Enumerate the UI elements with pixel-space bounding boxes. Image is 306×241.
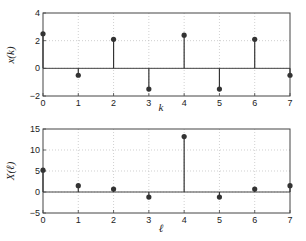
x-tick-label: 0 <box>40 98 45 108</box>
y-axis-label: X(ℓ) <box>4 161 17 181</box>
x-tick-label: 7 <box>287 215 292 225</box>
stem-marker <box>111 186 116 191</box>
stem-marker <box>182 33 187 38</box>
stem-marker <box>252 186 257 191</box>
x-tick-label: 5 <box>217 215 222 225</box>
stem-marker <box>146 86 151 91</box>
y-tick-label: −2 <box>30 91 40 101</box>
x-tick-label: 4 <box>182 98 187 108</box>
axes-frame <box>43 13 290 96</box>
stem-marker <box>217 194 222 199</box>
stem-marker <box>76 73 81 78</box>
stem-marker <box>287 183 292 188</box>
y-tick-label: 0 <box>35 63 40 73</box>
subplot-1: 01234567−2024kx(k) <box>4 8 293 113</box>
x-tick-label: 0 <box>40 215 45 225</box>
x-tick-label: 2 <box>111 98 116 108</box>
x-axis-label: k <box>159 101 165 113</box>
x-tick-label: 3 <box>146 215 151 225</box>
x-tick-label: 4 <box>182 215 187 225</box>
stem-marker <box>217 86 222 91</box>
stem-marker <box>76 183 81 188</box>
y-tick-label: 2 <box>35 36 40 46</box>
y-tick-label: 5 <box>35 166 40 176</box>
y-tick-label: 15 <box>30 124 40 134</box>
stem-plots: 01234567−2024kx(k)01234567−5051015ℓX(ℓ) <box>0 0 306 241</box>
x-tick-label: 2 <box>111 215 116 225</box>
stem-marker <box>40 31 45 36</box>
y-tick-label: 0 <box>35 187 40 197</box>
x-tick-label: 1 <box>76 215 81 225</box>
x-tick-label: 3 <box>146 98 151 108</box>
stem-marker <box>287 73 292 78</box>
x-tick-label: 5 <box>217 98 222 108</box>
y-tick-label: 10 <box>30 145 40 155</box>
y-axis-label: x(k) <box>4 46 17 64</box>
stem-marker <box>252 37 257 42</box>
stem-marker <box>111 37 116 42</box>
x-tick-label: 6 <box>252 98 257 108</box>
x-tick-label: 7 <box>287 98 292 108</box>
y-tick-label: 4 <box>35 8 40 18</box>
x-axis-label: ℓ <box>159 222 164 234</box>
y-tick-label: −5 <box>30 208 40 218</box>
subplot-2: 01234567−5051015ℓX(ℓ) <box>4 124 293 234</box>
x-tick-label: 6 <box>252 215 257 225</box>
stem-marker <box>40 168 45 173</box>
x-tick-label: 1 <box>76 98 81 108</box>
stem-marker <box>182 134 187 139</box>
stem-marker <box>146 194 151 199</box>
